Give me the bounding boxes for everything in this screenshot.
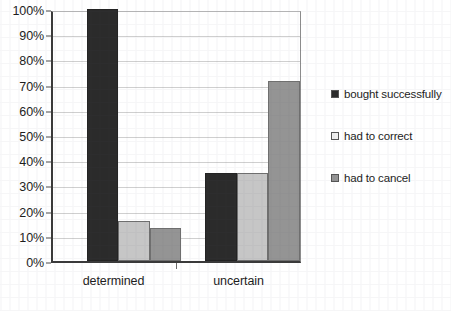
bar-determined-had-to-cancel (150, 228, 182, 261)
bar-determined-bought-successfully (87, 9, 119, 261)
y-axis-tick-label: 20% (19, 207, 44, 219)
bars-layer (53, 12, 300, 261)
x-axis-category-label: uncertain (213, 274, 264, 288)
y-axis-tick-label: 80% (19, 55, 44, 67)
category-tick-mark (176, 263, 177, 269)
bar-uncertain-had-to-correct (237, 173, 269, 261)
y-axis-tick-label: 0% (26, 257, 44, 269)
legend-swatch-icon (331, 132, 339, 140)
legend-label: bought successfully (344, 88, 442, 100)
bar-uncertain-had-to-cancel (268, 81, 300, 261)
y-axis-tick-label: 50% (19, 131, 44, 143)
bar-uncertain-bought-successfully (205, 173, 237, 261)
x-axis-category-label: determined (83, 274, 145, 288)
y-axis-tick-label: 10% (19, 232, 44, 244)
legend-entry: had to cancel (331, 172, 410, 184)
y-axis-tick-label: 100% (12, 5, 44, 17)
legend-label: had to correct (344, 130, 412, 142)
category-tick-marks (51, 263, 301, 270)
y-axis-tick-label: 70% (19, 81, 44, 93)
bar-determined-had-to-correct (118, 221, 150, 261)
y-axis-tick-label: 90% (19, 30, 44, 42)
legend-entry: bought successfully (331, 88, 442, 100)
y-axis-tick-label: 60% (19, 106, 44, 118)
legend-swatch-icon (331, 174, 339, 182)
x-axis: determineduncertain (51, 274, 301, 294)
plot-area (51, 11, 301, 263)
y-axis: 100%90%80%70%60%50%40%30%20%10%0% (0, 11, 51, 263)
legend-swatch-icon (331, 90, 339, 98)
y-axis-tick-label: 30% (19, 181, 44, 193)
legend-entry: had to correct (331, 130, 412, 142)
legend-label: had to cancel (344, 172, 410, 184)
y-axis-tick-label: 40% (19, 156, 44, 168)
bar-chart: 100%90%80%70%60%50%40%30%20%10%0% determ… (0, 0, 451, 311)
